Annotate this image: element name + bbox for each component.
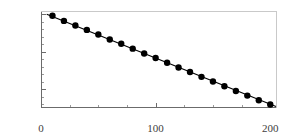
data-point	[49, 13, 55, 19]
data-point	[256, 97, 262, 103]
data-point	[198, 74, 204, 80]
data-point	[187, 69, 193, 75]
data-point	[221, 83, 227, 89]
data-point	[61, 18, 67, 24]
data-point	[72, 22, 78, 28]
data-layer	[41, 11, 277, 108]
x-tick-label: 0	[38, 123, 44, 134]
data-point	[141, 50, 147, 56]
data-point	[130, 45, 136, 51]
data-point	[107, 36, 113, 42]
data-point	[244, 92, 250, 98]
x-tick-label: 200	[262, 123, 279, 134]
data-point	[118, 41, 124, 47]
data-point	[164, 60, 170, 66]
data-point	[210, 78, 216, 84]
series-svg	[41, 11, 277, 108]
data-point	[175, 64, 181, 70]
x-tick-label: 100	[147, 123, 164, 134]
data-point	[233, 88, 239, 94]
data-point	[95, 31, 101, 37]
plot-frame: 110-2510-50 0100200	[41, 11, 277, 108]
trend-line	[47, 14, 276, 106]
chart-figure: 110-2510-50 0100200	[0, 0, 284, 134]
data-point	[267, 101, 273, 107]
data-point	[152, 55, 158, 61]
data-point	[84, 27, 90, 33]
